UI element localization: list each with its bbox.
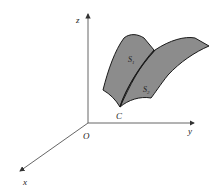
curve-c-label: C	[116, 111, 123, 121]
y-axis-label: y	[187, 126, 192, 136]
origin-label: O	[83, 131, 90, 141]
x-axis-label: x	[22, 177, 27, 187]
x-axis	[20, 123, 88, 171]
z-axis-label: z	[75, 15, 80, 25]
surfaces-diagram: z y x O C S1 S2	[0, 0, 220, 189]
